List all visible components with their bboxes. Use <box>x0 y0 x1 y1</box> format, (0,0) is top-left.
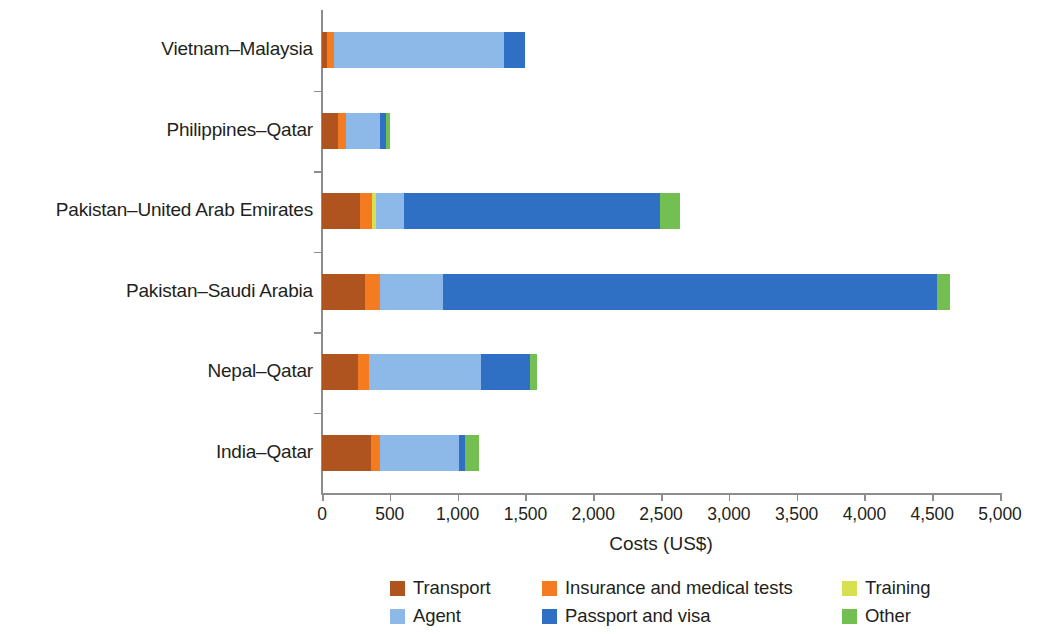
y-axis-tick <box>314 91 321 93</box>
stacked-bar-chart: Vietnam–MalaysiaPhilippines–QatarPakista… <box>0 0 1037 634</box>
x-axis-title: Costs (US$) <box>322 533 1000 555</box>
bar-segment <box>322 113 338 149</box>
x-axis-tick-label: 1,000 <box>436 504 479 525</box>
x-axis-tick <box>1000 493 1002 501</box>
x-axis-tick <box>729 493 731 501</box>
x-axis-tick-label: 2,500 <box>639 504 682 525</box>
legend-item[interactable]: Passport and visa <box>542 602 842 630</box>
bar-segment <box>360 193 372 229</box>
legend-item[interactable]: Training <box>842 574 960 602</box>
y-axis-tick <box>314 413 321 415</box>
x-axis-tick-label: 4,500 <box>911 504 954 525</box>
category-label: Pakistan–Saudi Arabia <box>0 280 322 302</box>
bar-segment <box>346 113 380 149</box>
legend-swatch-icon <box>842 581 857 596</box>
legend-label: Agent <box>413 605 461 627</box>
legend-label: Training <box>865 577 930 599</box>
x-axis-tick <box>458 493 460 501</box>
category-label: Vietnam–Malaysia <box>0 38 322 60</box>
x-axis-tick-label: 5,000 <box>978 504 1021 525</box>
legend-swatch-icon <box>542 581 557 596</box>
x-axis-tick-label: 500 <box>375 504 404 525</box>
category-label: Nepal–Qatar <box>0 360 322 382</box>
bar-row <box>322 274 1000 310</box>
x-axis-tick <box>390 493 392 501</box>
bar-segment <box>338 113 346 149</box>
legend-label: Passport and visa <box>565 605 710 627</box>
bar-segment <box>380 274 443 310</box>
bar-segment <box>386 113 390 149</box>
bar-row <box>322 193 1000 229</box>
x-axis-tick <box>864 493 866 501</box>
legend-item[interactable]: Transport <box>390 574 542 602</box>
category-label: Philippines–Qatar <box>0 119 322 141</box>
bar-segment <box>530 354 537 390</box>
x-axis-tick <box>797 493 799 501</box>
x-axis-tick-label: 0 <box>317 504 327 525</box>
bar-segment <box>365 274 380 310</box>
bar-segment <box>327 32 334 68</box>
bar-segment <box>937 274 950 310</box>
legend-swatch-icon <box>542 609 557 624</box>
legend-label: Transport <box>413 577 491 599</box>
category-label: Pakistan–United Arab Emirates <box>0 199 322 221</box>
legend-item[interactable]: Agent <box>390 602 542 630</box>
legend-item[interactable]: Insurance and medical tests <box>542 574 842 602</box>
bar-segment <box>322 274 365 310</box>
legend-row-1: TransportInsurance and medical testsTrai… <box>390 574 960 602</box>
x-axis-tick <box>322 493 324 501</box>
bar-segment <box>504 32 525 68</box>
bar-segment <box>380 435 459 471</box>
y-axis-tick <box>314 252 321 254</box>
legend-row-2: AgentPassport and visaOther <box>390 602 960 630</box>
bars-container <box>322 10 1000 493</box>
legend-swatch-icon <box>390 581 405 596</box>
legend-label: Other <box>865 605 911 627</box>
bar-segment <box>660 193 680 229</box>
chart-legend: TransportInsurance and medical testsTrai… <box>390 574 960 630</box>
category-label: India–Qatar <box>0 441 322 463</box>
bar-row <box>322 113 1000 149</box>
bar-segment <box>371 435 380 471</box>
x-axis-tick-label: 3,000 <box>707 504 750 525</box>
x-axis-tick <box>661 493 663 501</box>
bar-segment <box>334 32 504 68</box>
x-axis-tick-label: 3,500 <box>775 504 818 525</box>
bar-segment <box>443 274 937 310</box>
x-axis-tick <box>593 493 595 501</box>
bar-segment <box>369 354 481 390</box>
bar-segment <box>481 354 530 390</box>
x-axis-tick <box>932 493 934 501</box>
x-axis-tick <box>525 493 527 501</box>
y-axis-tick <box>314 171 321 173</box>
x-axis-tick-label: 1,500 <box>504 504 547 525</box>
bar-segment <box>358 354 369 390</box>
x-axis-tick-label: 2,000 <box>572 504 615 525</box>
bar-segment <box>322 193 360 229</box>
x-axis-tick-label: 4,000 <box>843 504 886 525</box>
legend-label: Insurance and medical tests <box>565 577 793 599</box>
bar-segment <box>465 435 479 471</box>
bar-segment <box>376 193 404 229</box>
legend-item[interactable]: Other <box>842 602 960 630</box>
y-axis-tick <box>314 332 321 334</box>
legend-swatch-icon <box>842 609 857 624</box>
bar-segment <box>322 354 358 390</box>
bar-row <box>322 354 1000 390</box>
bar-segment <box>404 193 660 229</box>
legend-swatch-icon <box>390 609 405 624</box>
bar-row <box>322 32 1000 68</box>
bar-row <box>322 435 1000 471</box>
bar-segment <box>322 435 371 471</box>
